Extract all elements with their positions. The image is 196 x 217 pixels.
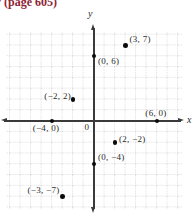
point-label: (3, 7) [130,35,151,45]
y-axis-label: y [88,9,92,19]
y-axis-down-arrow-icon [91,207,95,213]
data-point [71,97,76,102]
origin-label: 0 [85,123,90,132]
point-label: (2, −2) [119,135,146,145]
x-axis-label: x [187,115,191,125]
data-point [123,43,128,48]
point-label: (−3, −7) [27,186,59,196]
coordinate-plane: x y 0 (3, 7)(0, 6)(−2, 2)(−4, 0)(6, 0)(2… [0,0,196,217]
data-point [60,194,65,199]
data-point [113,140,118,145]
x-axis-right-arrow-icon [178,118,184,122]
point-label: (6, 0) [145,109,166,119]
x-axis-left-arrow-icon [1,118,7,122]
point-label: (−2, 2) [44,92,71,102]
point-label: (0, 6) [98,57,119,67]
textbook-figure: y (page 605) x y 0 (3, 7)(0, 6)(−2, 2)(−… [0,0,196,217]
point-label: (−4, 0) [33,124,60,134]
point-label: (0, −4) [98,153,125,163]
y-axis-up-arrow-icon [91,24,95,30]
